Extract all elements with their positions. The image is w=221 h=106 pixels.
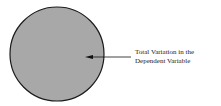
label-line-1: Total Variation in the (135, 48, 194, 57)
variation-label: Total Variation in the Dependent Variabl… (135, 48, 194, 66)
label-line-2: Dependent Variable (135, 57, 194, 66)
total-variation-circle (10, 7, 104, 101)
